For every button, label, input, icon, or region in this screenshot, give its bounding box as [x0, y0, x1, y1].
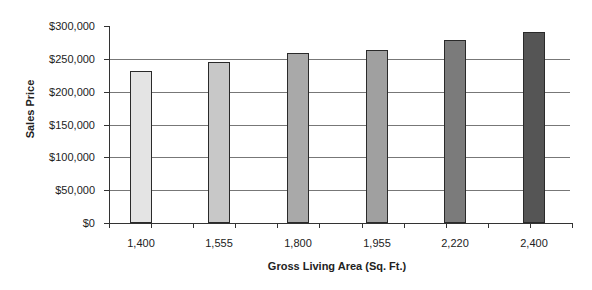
bar-chart: Sales Price Gross Living Area (Sq. Ft.) …: [0, 0, 592, 290]
y-tick-label: $150,000: [5, 119, 95, 131]
bar-1555: [208, 62, 230, 223]
x-tick-mark: [404, 223, 405, 228]
bar-2400: [523, 32, 545, 223]
x-tick-mark: [235, 223, 236, 228]
y-tick-label: $50,000: [5, 184, 95, 196]
y-tick-label: $200,000: [5, 86, 95, 98]
gridline: [109, 92, 570, 93]
gridline: [109, 125, 570, 126]
y-tick-label: $0: [5, 217, 95, 229]
x-tick-mark: [151, 223, 152, 228]
x-tick-label: 1,800: [268, 237, 328, 249]
bar-2220: [444, 40, 466, 223]
x-tick-mark: [572, 223, 573, 228]
x-tick-label: 1,555: [189, 237, 249, 249]
x-tick-mark: [193, 223, 194, 228]
x-tick-mark: [319, 223, 320, 228]
x-axis-title: Gross Living Area (Sq. Ft.): [237, 260, 437, 272]
x-axis-line: [109, 223, 572, 224]
x-tick-mark: [109, 223, 110, 228]
gridline: [109, 59, 570, 60]
x-tick-mark: [446, 223, 447, 228]
gridline: [109, 157, 570, 158]
y-tick-label: $250,000: [5, 53, 95, 65]
x-tick-label: 2,400: [504, 237, 564, 249]
x-tick-label: 1,955: [347, 237, 407, 249]
y-tick-label: $300,000: [5, 20, 95, 32]
bar-1955: [366, 50, 388, 223]
bar-1400: [130, 71, 152, 223]
bar-1800: [287, 53, 309, 223]
x-tick-label: 2,220: [425, 237, 485, 249]
y-axis-line: [109, 26, 110, 224]
x-tick-mark: [530, 223, 531, 228]
x-tick-label: 1,400: [111, 237, 171, 249]
gridline: [109, 190, 570, 191]
x-tick-mark: [362, 223, 363, 228]
x-tick-mark: [277, 223, 278, 228]
y-tick-label: $100,000: [5, 151, 95, 163]
x-tick-mark: [488, 223, 489, 228]
